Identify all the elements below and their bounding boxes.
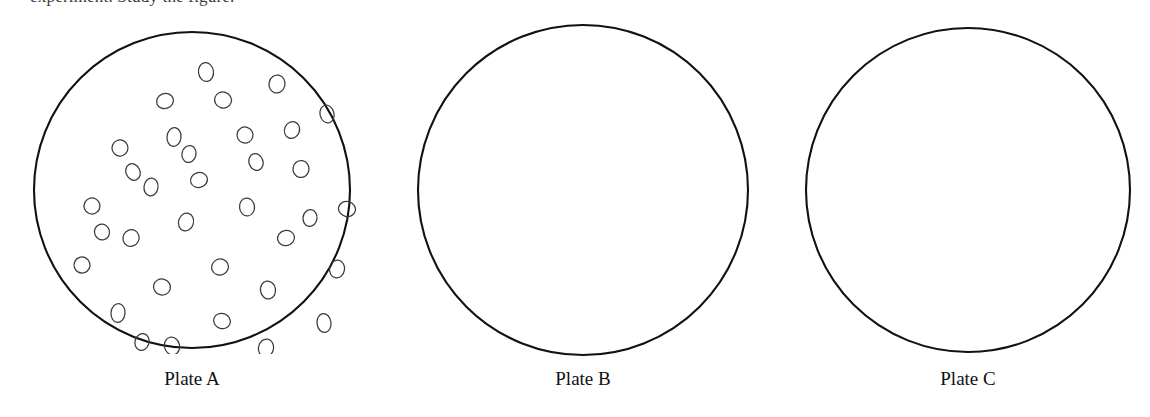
plate-label-c: Plate C <box>800 368 1136 390</box>
bacterial-colony <box>257 338 275 354</box>
petri-dish-outline <box>34 32 350 348</box>
petri-dish-outline <box>806 28 1130 352</box>
plate-label-a: Plate A <box>28 368 356 390</box>
petri-dish-plate-a <box>28 26 356 354</box>
petri-dish-outline <box>418 25 748 355</box>
bacterial-colony <box>316 313 332 334</box>
petri-dish-plate-c <box>800 22 1136 358</box>
plate-group-a[interactable]: Plate A <box>28 0 356 417</box>
plate-label-b: Plate B <box>412 368 754 390</box>
plate-group-c[interactable]: Plate C <box>800 0 1136 417</box>
petri-dish-plate-b <box>412 19 754 361</box>
plate-group-b[interactable]: Plate B <box>412 0 754 417</box>
figure-root: experiment. Study the figure. Plate APla… <box>0 0 1150 417</box>
